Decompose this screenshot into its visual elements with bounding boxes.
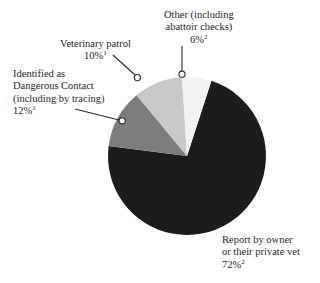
leader-marker-other [179, 71, 185, 77]
leader-marker-veterinary-patrol [134, 75, 140, 81]
pie-label-report-by-owner: Report by owner or their private vet 72%… [222, 234, 300, 271]
pie-label-dangerous-contact-line3: (including by tracing) [13, 93, 105, 105]
pie-label-dangerous-contact-value-line: 12%1 [13, 105, 105, 117]
pie-label-report-by-owner-line2: or their private vet [222, 246, 300, 258]
pie-label-veterinary-patrol-footnote: 1 [103, 49, 107, 57]
pie-label-report-by-owner-line1: Report by owner [222, 234, 300, 246]
pie-label-dangerous-contact-line2: Dangerous Contact [13, 80, 105, 92]
pie-label-other-value: 6% [190, 34, 204, 45]
pie-label-other-footnote: 2 [204, 32, 208, 40]
pie-label-other-line1: Other (including [164, 9, 234, 21]
pie-label-veterinary-patrol-value: 10% [84, 50, 103, 61]
pie-label-veterinary-patrol-line1: Veterinary patrol [60, 38, 131, 50]
pie-label-other-value-line: 6%2 [164, 34, 234, 46]
pie-label-dangerous-contact-footnote: 1 [32, 104, 36, 112]
pie-label-veterinary-patrol-value-line: 10%1 [60, 50, 131, 62]
pie-label-report-by-owner-footnote: 2 [241, 257, 245, 265]
pie-label-report-by-owner-value: 72% [222, 259, 241, 270]
leader-marker-dangerous-contact [119, 118, 125, 124]
pie-chart-figure: Other (including abattoir checks) 6%2 Ve… [0, 0, 320, 283]
pie-label-dangerous-contact-line1: Identified as [13, 68, 105, 80]
pie-label-dangerous-contact-value: 12% [13, 105, 32, 116]
pie-label-dangerous-contact: Identified as Dangerous Contact (includi… [13, 68, 105, 118]
pie-label-veterinary-patrol: Veterinary patrol 10%1 [60, 38, 131, 63]
pie-label-other-line2: abattoir checks) [164, 21, 234, 33]
pie-label-report-by-owner-value-line: 72%2 [222, 259, 300, 271]
pie-label-other: Other (including abattoir checks) 6%2 [164, 9, 234, 46]
